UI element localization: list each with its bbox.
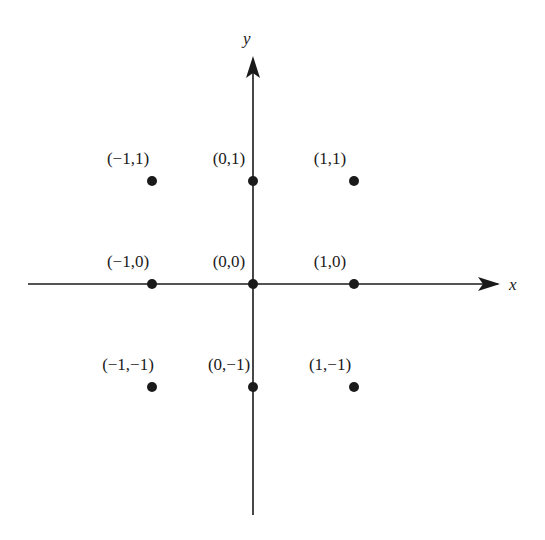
lattice-point [147,382,157,392]
point-label: (−1,1) [107,149,149,168]
point-label: (1,1) [314,149,347,168]
point-label: (−1,−1) [102,355,154,374]
point-label: (−1,0) [107,252,149,271]
lattice-points: (−1,1)(0,1)(1,1)(−1,0)(0,0)(1,0)(−1,−1)(… [102,149,359,392]
lattice-point [147,279,157,289]
y-axis-label: y [241,29,251,48]
point-label: (0,−1) [208,355,250,374]
lattice-point [147,176,157,186]
x-axis-label: x [508,275,517,294]
point-label: (0,0) [213,252,246,271]
lattice-point [349,382,359,392]
lattice-point [248,279,258,289]
lattice-point [248,382,258,392]
lattice-point [248,176,258,186]
lattice-point [349,279,359,289]
point-label: (0,1) [213,149,246,168]
point-label: (1,0) [314,252,347,271]
lattice-point [349,176,359,186]
point-label: (1,−1) [309,355,351,374]
integer-lattice-diagram: x y (−1,1)(0,1)(1,1)(−1,0)(0,0)(1,0)(−1,… [0,0,545,540]
